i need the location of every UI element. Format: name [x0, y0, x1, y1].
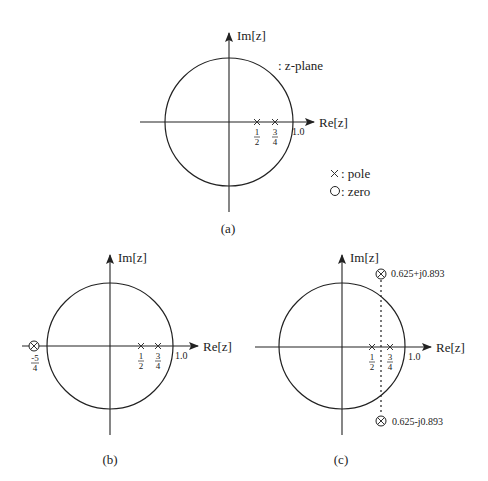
zero-label-neg-five-quarters: -5 4 [31, 353, 39, 373]
pole-label-half: 1 2 [254, 127, 260, 147]
re-axis-label: Re[z] [436, 340, 465, 355]
caption-b: (b) [102, 452, 117, 467]
legend-zero-label: : zero [341, 184, 370, 199]
im-axis-label: Im[z] [118, 250, 147, 265]
svg-text:4: 4 [156, 361, 161, 371]
zero-label-lower: 0.625-j0.893 [392, 416, 443, 427]
zero-marker [376, 416, 386, 426]
svg-text:2: 2 [255, 137, 260, 147]
pole-label-three-quarters: 3 4 [272, 127, 278, 147]
svg-text:4: 4 [388, 362, 393, 372]
re-axis-label: Re[z] [203, 339, 232, 354]
legend-pole-icon [331, 170, 338, 177]
legend-pole-label: : pole [341, 166, 370, 181]
svg-text:1: 1 [370, 352, 375, 362]
svg-text:2: 2 [370, 362, 375, 372]
im-axis-label: Im[z] [237, 28, 266, 43]
zero-marker [376, 269, 386, 279]
svg-text:1: 1 [139, 351, 144, 361]
unit-label: 1.0 [408, 351, 421, 362]
caption-c: (c) [334, 452, 348, 467]
panel-b: Im[z] Re[z] 1.0 1 2 3 4 -5 4 (b) [22, 250, 232, 467]
svg-text:1: 1 [255, 127, 260, 137]
panel-c: Im[z] Re[z] 1.0 1 2 3 4 0.625+j0.893 0.6… [255, 250, 465, 467]
svg-text:3: 3 [273, 127, 278, 137]
unit-label: 1.0 [292, 126, 305, 137]
unit-label: 1.0 [175, 350, 188, 361]
zero-marker [29, 341, 39, 351]
pole-label-three-quarters: 3 4 [387, 352, 393, 372]
pole-label-half: 1 2 [138, 351, 144, 371]
legend: : pole : zero [331, 166, 371, 199]
svg-text:3: 3 [388, 352, 393, 362]
zero-label-upper: 0.625+j0.893 [391, 268, 444, 279]
re-axis-label: Re[z] [319, 115, 348, 130]
svg-text:4: 4 [33, 363, 38, 373]
pole-label-three-quarters: 3 4 [155, 351, 161, 371]
svg-text:-5: -5 [31, 353, 39, 363]
panel-a: Im[z] Re[z] 1.0 : z-plane 1 2 3 4 : pole… [140, 28, 370, 236]
svg-text:4: 4 [273, 137, 278, 147]
svg-text:2: 2 [139, 361, 144, 371]
pole-zero-figure: Im[z] Re[z] 1.0 : z-plane 1 2 3 4 : pole… [0, 0, 488, 481]
caption-a: (a) [221, 221, 235, 236]
svg-text:3: 3 [156, 351, 161, 361]
im-axis-label: Im[z] [350, 250, 379, 265]
z-plane-label: : z-plane [278, 58, 323, 73]
pole-label-half: 1 2 [369, 352, 375, 372]
legend-zero-icon [331, 187, 340, 196]
